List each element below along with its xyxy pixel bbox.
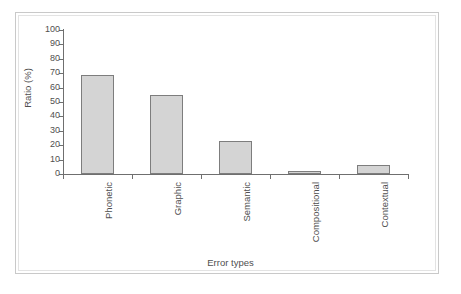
y-axis-tick-label: 40 (50, 110, 60, 121)
bar (288, 171, 321, 174)
x-axis-tick (339, 175, 340, 179)
y-axis-tick-label: 70 (50, 67, 60, 78)
y-axis-tick-label: 50 (50, 96, 60, 107)
y-axis-tick-label: 10 (50, 154, 60, 165)
chart-figure: 0102030405060708090100 PhoneticGraphicSe… (0, 0, 461, 294)
x-axis-title: Error types (0, 257, 461, 268)
x-axis-label: Semantic (241, 182, 252, 222)
y-axis-tick-label: 100 (45, 24, 60, 35)
y-axis-tick-label: 20 (50, 139, 60, 150)
y-axis-title: Ratio (%) (22, 68, 33, 108)
x-axis-tick (201, 175, 202, 179)
x-axis-label: Phonetic (103, 182, 114, 219)
y-axis-tick-label: 60 (50, 82, 60, 93)
y-axis-tick-label: 30 (50, 125, 60, 136)
x-axis-label: Compositional (310, 182, 321, 242)
bar (219, 141, 252, 174)
y-axis-tick-label: 0 (55, 168, 60, 179)
bar (150, 95, 183, 174)
x-axis-tick (63, 175, 64, 179)
bar (81, 75, 114, 174)
bar (357, 165, 390, 174)
x-axis-line (63, 174, 409, 175)
x-axis-tick (408, 175, 409, 179)
y-axis-tick-label: 90 (50, 38, 60, 49)
x-axis-tick (132, 175, 133, 179)
x-axis-label: Graphic (172, 182, 183, 215)
x-axis-label: Contextual (379, 182, 390, 227)
plot-area (63, 30, 408, 174)
y-axis-tick-label: 80 (50, 53, 60, 64)
x-axis-tick (270, 175, 271, 179)
